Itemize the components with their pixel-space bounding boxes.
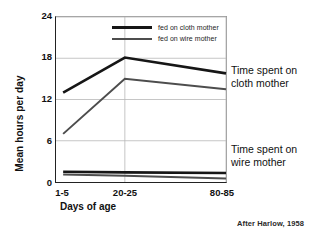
legend-label: fed on wire mother <box>158 35 217 42</box>
y-tick-label: 12 <box>30 94 52 104</box>
annotation-cloth-mother: Time spent on cloth mother <box>231 64 309 89</box>
y-tick-label: 0 <box>30 178 52 188</box>
legend-item-wire: fed on wire mother <box>112 33 230 44</box>
chart-figure: Mean hours per day 24 18 12 6 0 1-5 20-2… <box>0 0 310 237</box>
y-tick-label: 6 <box>30 136 52 146</box>
legend-label: fed on cloth mother <box>158 24 219 31</box>
x-tick-label: 20-25 <box>113 187 137 198</box>
data-series-lines <box>63 58 226 179</box>
chart-legend: fed on cloth mother fed on wire mother <box>112 22 230 44</box>
y-tick-label: 24 <box>30 11 52 21</box>
attribution-text: After Harlow, 1958 <box>237 219 304 228</box>
y-axis-tick-labels: 24 18 12 6 0 <box>30 0 52 237</box>
x-tick-label: 80-85 <box>210 187 234 198</box>
x-axis-title: Days of age <box>60 201 116 212</box>
y-tick-label: 18 <box>30 52 52 62</box>
legend-line-icon-cloth <box>112 26 152 29</box>
x-tick-label: 1-5 <box>55 187 69 198</box>
series-line <box>63 174 226 178</box>
legend-item-cloth: fed on cloth mother <box>112 22 230 33</box>
series-line <box>63 172 226 173</box>
series-line <box>63 79 226 134</box>
annotation-wire-mother: Time spent on wire mother <box>231 143 309 168</box>
legend-line-icon-wire <box>112 38 152 40</box>
y-axis-title: Mean hours per day <box>14 54 25 194</box>
